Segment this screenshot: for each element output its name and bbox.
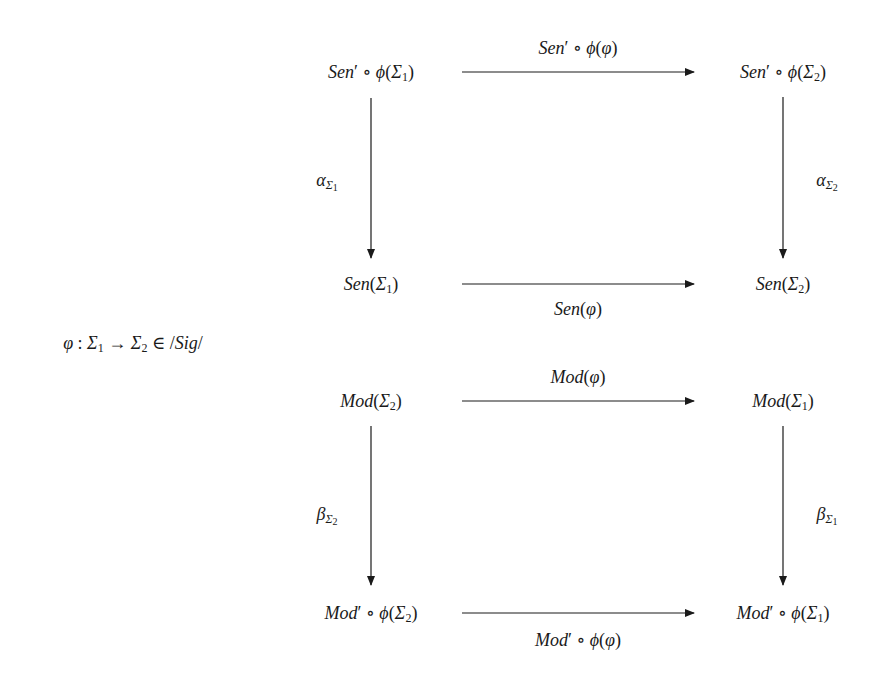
functor-name: Sen xyxy=(538,38,564,58)
paren: ) xyxy=(411,603,417,623)
paren: ) xyxy=(823,603,829,623)
label-alpha-sigma1: αΣ1 xyxy=(316,169,338,191)
phi-symbol: ϕ xyxy=(376,62,385,82)
node-mod-sigma2: Mod(Σ2) xyxy=(340,390,402,412)
label-sen-phi: Sen(φ) xyxy=(554,298,602,320)
varphi-symbol: φ xyxy=(586,299,596,319)
sig-category: Sig xyxy=(175,333,198,353)
premise-signature-morphism: φ : Σ1 → Σ2 ∈ /Sig/ xyxy=(63,332,203,354)
paren: ) xyxy=(820,62,826,82)
varphi-symbol: φ xyxy=(602,38,612,58)
label-alpha-sigma2: αΣ2 xyxy=(816,169,838,191)
functor-name: Sen xyxy=(344,274,370,294)
paren: ) xyxy=(408,62,414,82)
sigma-symbol: Σ xyxy=(791,391,802,411)
paren: ) xyxy=(396,391,402,411)
element-of-symbol: ∈ / xyxy=(148,333,175,353)
functor-name: Mod xyxy=(535,630,568,650)
node-mod-sigma1: Mod(Σ1) xyxy=(752,390,814,412)
paren: ) xyxy=(808,391,814,411)
phi-symbol: ϕ xyxy=(590,630,599,650)
sigma-symbol: Σ xyxy=(391,62,402,82)
functor-name: Mod xyxy=(752,391,785,411)
functor-name: Sen xyxy=(756,274,782,294)
functor-name: Mod xyxy=(737,603,770,623)
node-sen-sigma1: Sen(Σ1) xyxy=(344,273,399,295)
sigma-symbol: Σ xyxy=(379,391,390,411)
paren: ) xyxy=(596,299,602,319)
sigma-symbol: Σ xyxy=(788,274,799,294)
sigma-symbol: Σ xyxy=(395,603,406,623)
sigma-symbol: Σ xyxy=(131,333,142,353)
subscript: 2 xyxy=(833,182,838,193)
phi-symbol: ϕ xyxy=(379,603,388,623)
compose-symbol: ∘ xyxy=(362,603,380,623)
phi-symbol: ϕ xyxy=(788,62,797,82)
paren: ) xyxy=(804,274,810,294)
label-beta-sigma2: βΣ2 xyxy=(316,503,337,525)
subscript: 2 xyxy=(333,516,338,527)
functor-name: Sen xyxy=(328,62,354,82)
beta-symbol: β xyxy=(816,504,825,524)
phi-symbol: φ xyxy=(63,333,73,353)
paren: ) xyxy=(599,367,605,387)
compose-symbol: ∘ xyxy=(774,603,792,623)
sigma-symbol: Σ xyxy=(376,274,387,294)
node-sen-prime-phi-sigma2: Sen′ ∘ ϕ(Σ2) xyxy=(740,61,826,83)
sigma-symbol: Σ xyxy=(87,333,98,353)
sigma-symbol: Σ xyxy=(807,603,818,623)
paren: ) xyxy=(392,274,398,294)
label-mod-phi: Mod(φ) xyxy=(551,366,606,388)
node-mod-prime-phi-sigma1: Mod′ ∘ ϕ(Σ1) xyxy=(737,602,830,624)
phi-symbol: ϕ xyxy=(791,603,800,623)
slash: / xyxy=(198,333,203,353)
phi-symbol: ϕ xyxy=(586,38,595,58)
sigma-symbol: Σ xyxy=(803,62,814,82)
functor-name: Mod xyxy=(325,603,358,623)
varphi-symbol: φ xyxy=(590,367,600,387)
subscript: Σ1 xyxy=(326,178,338,192)
functor-name: Mod xyxy=(340,391,373,411)
varphi-symbol: φ xyxy=(605,630,615,650)
node-sen-sigma2: Sen(Σ2) xyxy=(756,273,811,295)
compose-symbol: ∘ xyxy=(572,630,590,650)
label-sen-prime-phi-phi: Sen′ ∘ ϕ(φ) xyxy=(538,37,617,59)
sigma-symbol: Σ xyxy=(826,178,833,192)
label-mod-prime-phi-phi: Mod′ ∘ ϕ(φ) xyxy=(535,629,621,651)
functor-name: Sen xyxy=(554,299,580,319)
beta-symbol: β xyxy=(316,504,325,524)
label-beta-sigma1: βΣ1 xyxy=(816,503,837,525)
paren: ) xyxy=(612,38,618,58)
subscript: 1 xyxy=(333,182,338,193)
colon: : xyxy=(73,333,87,353)
functor-name: Mod xyxy=(551,367,584,387)
compose-symbol: ∘ xyxy=(770,62,788,82)
node-sen-prime-phi-sigma1: Sen′ ∘ ϕ(Σ1) xyxy=(328,61,414,83)
paren: ) xyxy=(615,630,621,650)
commutative-diagram: φ : Σ1 → Σ2 ∈ /Sig/ Sen′ ∘ ϕ(Σ1) Sen′ ∘ … xyxy=(0,0,879,680)
sigma-symbol: Σ xyxy=(326,178,333,192)
subscript: Σ1 xyxy=(825,512,837,526)
functor-name: Sen xyxy=(740,62,766,82)
subscript: Σ2 xyxy=(826,178,838,192)
subscript: Σ2 xyxy=(325,512,337,526)
node-mod-prime-phi-sigma2: Mod′ ∘ ϕ(Σ2) xyxy=(325,602,418,624)
arrow-symbol: → xyxy=(104,333,131,353)
compose-symbol: ∘ xyxy=(568,38,586,58)
compose-symbol: ∘ xyxy=(358,62,376,82)
subscript: 1 xyxy=(833,516,838,527)
